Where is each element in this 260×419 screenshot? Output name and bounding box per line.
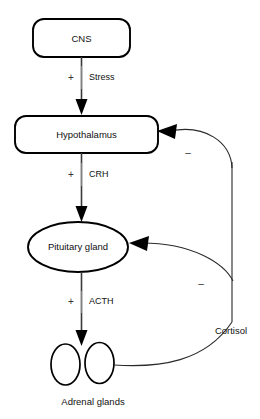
cortisol-to-hypothalamus-curve bbox=[170, 129, 232, 168]
adrenal-gland-right-shape bbox=[85, 343, 114, 384]
cns-to-hypothalamus-arrowhead bbox=[76, 99, 88, 115]
feedback-cortisol-trunk: Cortisol bbox=[114, 162, 247, 366]
crh-sign: + bbox=[68, 169, 74, 180]
adrenal-glands-label: Adrenal glands bbox=[61, 396, 125, 407]
node-hypothalamus[interactable]: Hypothalamus bbox=[15, 116, 158, 153]
pituitary-label: Pituitary gland bbox=[48, 241, 108, 252]
cns-label: CNS bbox=[71, 33, 91, 44]
cortisol-hypothalamus-minus-sign: – bbox=[185, 147, 191, 158]
hypothalamus-label: Hypothalamus bbox=[56, 129, 117, 140]
node-cns[interactable]: CNS bbox=[33, 19, 130, 57]
cortisol-label: Cortisol bbox=[215, 325, 247, 336]
stress-label: Stress bbox=[89, 72, 115, 82]
edge-pituitary-to-adrenal: + ACTH bbox=[68, 272, 113, 346]
node-adrenal-glands[interactable]: Adrenal glands bbox=[51, 343, 125, 407]
cortisol-to-pituitary-curve bbox=[142, 243, 233, 281]
cortisol-pituitary-minus-sign: – bbox=[198, 278, 204, 289]
diagram-canvas: CNS + Stress Hypothalamus + CRH Pituitar… bbox=[0, 0, 260, 419]
feedback-cortisol-to-pituitary: – bbox=[129, 236, 233, 289]
acth-sign: + bbox=[68, 296, 74, 307]
stress-sign: + bbox=[68, 72, 74, 83]
feedback-cortisol-to-hypothalamus: – bbox=[157, 124, 232, 168]
adrenal-gland-left-shape bbox=[51, 344, 80, 385]
cortisol-to-pituitary-arrowhead bbox=[129, 236, 149, 251]
acth-label: ACTH bbox=[89, 296, 114, 306]
hypothalamus-to-pituitary-arrowhead bbox=[76, 206, 88, 222]
cortisol-to-hypothalamus-arrowhead bbox=[157, 124, 177, 139]
pituitary-to-adrenal-arrowhead bbox=[76, 330, 88, 346]
edge-cns-to-hypothalamus: + Stress bbox=[68, 57, 115, 115]
crh-label: CRH bbox=[89, 169, 109, 179]
hpa-axis-diagram: CNS + Stress Hypothalamus + CRH Pituitar… bbox=[0, 0, 260, 419]
node-pituitary-gland[interactable]: Pituitary gland bbox=[28, 222, 128, 272]
edge-hypothalamus-to-pituitary: + CRH bbox=[68, 153, 108, 222]
